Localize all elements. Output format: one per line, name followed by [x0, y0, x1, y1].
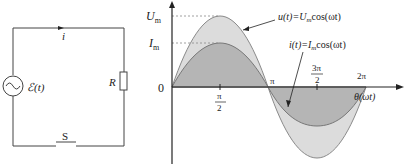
tick-pi: π: [270, 76, 275, 86]
tick-3pi-half-num: 3π: [312, 63, 322, 73]
tick-pi-half-num: π: [217, 91, 222, 101]
waveform-chart: [169, 1, 404, 164]
tick-pi-half-den: 2: [217, 103, 222, 113]
resistor-icon: [120, 72, 127, 90]
resistor-label: R: [108, 76, 116, 88]
current-label: i: [62, 30, 65, 42]
tick-2pi: 2π: [357, 71, 367, 81]
y-axis-arrow-icon: [169, 1, 175, 8]
tick-3pi-half-den: 2: [315, 75, 320, 85]
u-curve-label: u(t)=Umcos(ωt): [278, 11, 341, 24]
x-axis-arrow-icon: [396, 84, 404, 90]
im-label: Im: [148, 36, 160, 52]
x-axis-label: θ(ωt): [354, 91, 376, 103]
um-label: Um: [146, 9, 162, 25]
zero-label: 0: [158, 81, 164, 95]
source-label: ℰ(t): [27, 81, 45, 94]
i-curve-area: [172, 43, 366, 126]
figure: i ℰ(t) R S Um Im 0 π 2 π 3π 2 2π θ(ωt) u…: [0, 0, 408, 168]
i-curve-label: i(t)=Imcos(ωt): [289, 39, 346, 52]
switch-label: S: [62, 130, 68, 142]
